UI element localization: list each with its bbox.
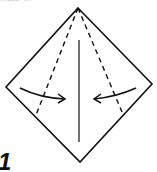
step-number: 1: [0, 150, 11, 172]
origami-diagram: [0, 0, 157, 172]
